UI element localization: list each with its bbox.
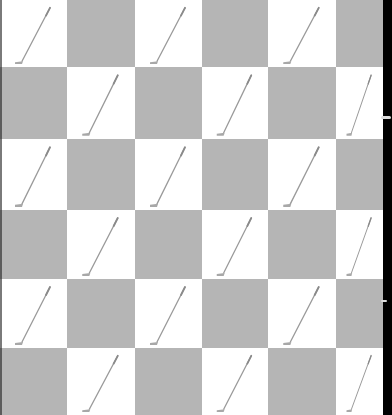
dark-square: [135, 67, 202, 139]
golf-club-icon: [336, 67, 383, 139]
dark-square: [0, 348, 67, 415]
golf-club-icon: [135, 139, 202, 210]
golf-club-icon: [0, 0, 67, 67]
light-square: [0, 279, 67, 348]
light-square: [202, 67, 268, 139]
right-black-border: [383, 0, 392, 415]
golf-club-icon: [268, 279, 336, 348]
light-square: [268, 279, 336, 348]
golf-club-icon: [202, 67, 268, 139]
light-square: [135, 279, 202, 348]
light-square: [336, 67, 383, 139]
dark-square: [67, 139, 135, 210]
dark-square: [268, 348, 336, 415]
golf-club-icon: [135, 0, 202, 67]
left-edge-shadow: [0, 0, 2, 415]
golf-club-icon: [0, 139, 67, 210]
dark-square: [202, 139, 268, 210]
golf-club-icon: [202, 348, 268, 415]
golf-club-icon: [202, 210, 268, 279]
golf-club-icon: [0, 279, 67, 348]
dark-square: [336, 279, 383, 348]
light-square: [268, 0, 336, 67]
golf-club-icon: [135, 279, 202, 348]
dark-square: [268, 67, 336, 139]
dark-square: [135, 348, 202, 415]
dark-square: [67, 279, 135, 348]
dark-square: [202, 279, 268, 348]
light-square: [67, 67, 135, 139]
dark-square: [67, 0, 135, 67]
dark-square: [135, 210, 202, 279]
torn-edge-notch: [381, 300, 387, 302]
light-square: [0, 0, 67, 67]
dark-square: [202, 0, 268, 67]
light-square: [202, 348, 268, 415]
dark-square: [0, 67, 67, 139]
torn-edge-notch: [381, 116, 391, 119]
golf-club-icon: [67, 348, 135, 415]
golf-club-icon: [336, 348, 383, 415]
golf-club-icon: [67, 210, 135, 279]
checkerboard: [0, 0, 383, 415]
golf-club-icon: [67, 67, 135, 139]
light-square: [67, 348, 135, 415]
dark-square: [336, 139, 383, 210]
golf-club-icon: [268, 0, 336, 67]
dark-square: [336, 0, 383, 67]
light-square: [67, 210, 135, 279]
light-square: [268, 139, 336, 210]
light-square: [0, 139, 67, 210]
dark-square: [268, 210, 336, 279]
light-square: [336, 210, 383, 279]
light-square: [336, 348, 383, 415]
light-square: [202, 210, 268, 279]
golf-club-icon: [336, 210, 383, 279]
golf-club-icon: [268, 139, 336, 210]
light-square: [135, 0, 202, 67]
light-square: [135, 139, 202, 210]
dark-square: [0, 210, 67, 279]
